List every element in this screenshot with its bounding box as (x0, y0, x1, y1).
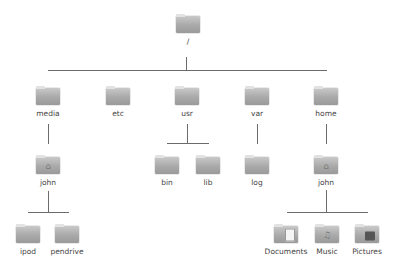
node-media-john[interactable]: ⌂ john (13, 157, 83, 187)
connector-media-vertical (48, 124, 49, 144)
connector-home-john-horizontal (287, 212, 368, 213)
folder-icon (245, 88, 269, 105)
folder-icon (176, 16, 200, 33)
connector-home-john-vertical (326, 190, 327, 212)
connector-usr-horizontal (167, 143, 209, 144)
pictures-folder-icon (355, 226, 379, 243)
node-pendrive[interactable]: pendrive (32, 226, 102, 256)
connector-root-vertical (186, 57, 187, 70)
picture-icon (365, 231, 375, 240)
node-label: home (291, 109, 361, 118)
house-glyph-icon: ⌂ (323, 161, 329, 170)
folder-icon (245, 157, 269, 174)
folder-icon (106, 88, 130, 105)
node-etc[interactable]: etc (83, 88, 153, 118)
node-label: / (153, 37, 223, 46)
folder-icon (55, 226, 79, 243)
node-label: log (222, 178, 292, 187)
music-note-icon: ♫ (323, 230, 331, 239)
node-label: media (13, 109, 83, 118)
node-label: john (13, 178, 83, 187)
folder-icon (175, 88, 199, 105)
node-usr[interactable]: usr (152, 88, 222, 118)
node-media[interactable]: media (13, 88, 83, 118)
node-pictures[interactable]: Pictures (332, 226, 397, 256)
connector-media-john-horizontal (28, 212, 69, 213)
connector-media-john-vertical (48, 191, 49, 212)
folder-icon (36, 88, 60, 105)
connector-level1-horizontal (48, 70, 327, 71)
node-label: usr (152, 109, 222, 118)
house-glyph-icon: ⌂ (45, 161, 51, 170)
node-home-john[interactable]: ⌂ john (291, 157, 361, 187)
node-label: var (222, 109, 292, 118)
folder-icon (314, 88, 338, 105)
node-log[interactable]: log (222, 157, 292, 187)
node-label: pendrive (32, 247, 102, 256)
connector-var-vertical (257, 124, 258, 144)
node-root[interactable]: / (153, 16, 223, 46)
node-label: Pictures (332, 247, 397, 256)
home-folder-icon: ⌂ (314, 157, 338, 174)
node-label: etc (83, 109, 153, 118)
node-home[interactable]: home (291, 88, 361, 118)
connector-usr-vertical (187, 124, 188, 143)
connector-home-vertical (326, 124, 327, 144)
node-var[interactable]: var (222, 88, 292, 118)
folder-icon (196, 157, 220, 174)
node-label: john (291, 178, 361, 187)
home-folder-icon: ⌂ (36, 157, 60, 174)
